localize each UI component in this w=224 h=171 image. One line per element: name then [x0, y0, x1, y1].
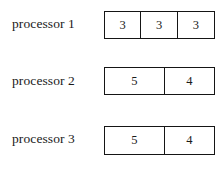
processor-row-label: processor 1 [12, 16, 75, 32]
processor-row: processor 3 5 4 [0, 115, 224, 167]
processor-task-bar: 5 4 [104, 67, 215, 95]
processor-task-bar: 5 4 [104, 126, 215, 155]
task-cell: 4 [165, 127, 214, 154]
task-cell: 5 [105, 68, 165, 94]
processor-schedule-diagram: processor 1 3 3 3 processor 2 5 4 proces… [0, 0, 224, 171]
task-cell: 3 [178, 12, 214, 38]
processor-row-label: processor 3 [12, 131, 75, 147]
processor-row: processor 2 5 4 [0, 56, 224, 108]
task-cell: 4 [165, 68, 214, 94]
processor-row-label: processor 2 [12, 73, 75, 89]
task-cell: 5 [105, 127, 165, 154]
processor-row: processor 1 3 3 3 [0, 0, 224, 52]
processor-task-bar: 3 3 3 [104, 11, 215, 39]
task-cell: 3 [105, 12, 141, 38]
task-cell: 3 [141, 12, 177, 38]
